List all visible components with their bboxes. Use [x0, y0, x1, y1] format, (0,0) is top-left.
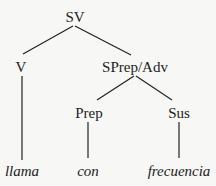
node-v: V: [16, 59, 27, 75]
leaf-con: con: [77, 163, 99, 179]
tree-edges: [0, 0, 216, 186]
node-sv: SV: [65, 9, 84, 25]
edge-sv-v: [23, 26, 73, 54]
edge-sprep-sus: [136, 76, 172, 100]
edge-sv-sprep: [75, 26, 131, 55]
node-sprep-adv: SPrep/Adv: [102, 59, 168, 75]
edge-sprep-prep: [97, 76, 134, 100]
node-sus: Sus: [168, 105, 190, 121]
node-prep: Prep: [75, 105, 103, 121]
leaf-frecuencia: frecuencia: [148, 163, 211, 179]
leaf-llama: llama: [5, 163, 39, 179]
